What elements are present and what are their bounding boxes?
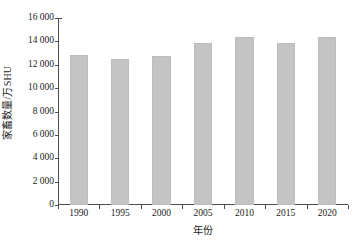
bar xyxy=(318,37,336,205)
y-axis-tick-label: 8 000 xyxy=(14,107,54,117)
plot-area xyxy=(58,18,348,205)
x-axis-tick-label: 2000 xyxy=(152,208,171,219)
x-axis-tick-label: 2020 xyxy=(318,208,337,219)
y-axis-tick-label: 0 xyxy=(14,200,54,210)
x-axis-tick-label: 1995 xyxy=(111,208,130,219)
bar xyxy=(277,43,295,205)
y-axis-tick-label: 16 000 xyxy=(14,13,54,23)
y-axis-tick-label: 4 000 xyxy=(14,154,54,164)
x-axis-title: 年份 xyxy=(58,226,348,236)
y-axis-title-text: 家畜数量/万SHU xyxy=(3,65,13,140)
bars-layer xyxy=(58,18,348,205)
bar xyxy=(235,37,253,205)
y-axis-tick-labels: 02 0004 0006 0008 00010 00012 00014 0001… xyxy=(14,18,54,205)
x-axis-tick-label: 2010 xyxy=(235,208,254,219)
bar xyxy=(194,43,212,205)
bar-chart: 家畜数量/万SHU 02 0004 0006 0008 00010 00012 … xyxy=(0,0,356,251)
y-axis-tick-label: 6 000 xyxy=(14,130,54,140)
y-axis-tick-label: 2 000 xyxy=(14,177,54,187)
x-axis-tick-label: 2015 xyxy=(276,208,295,219)
x-axis-tick-label: 2005 xyxy=(194,208,213,219)
bar xyxy=(152,56,170,205)
y-axis-tick-label: 12 000 xyxy=(14,60,54,70)
bar xyxy=(111,59,129,205)
x-axis-tick-labels: 1990199520002005201020152020 xyxy=(58,208,348,222)
bar xyxy=(70,55,88,205)
y-axis-tick-label: 10 000 xyxy=(14,83,54,93)
y-axis-tick-label: 14 000 xyxy=(14,37,54,47)
x-axis-tick xyxy=(348,205,349,209)
x-axis-tick-label: 1990 xyxy=(69,208,88,219)
